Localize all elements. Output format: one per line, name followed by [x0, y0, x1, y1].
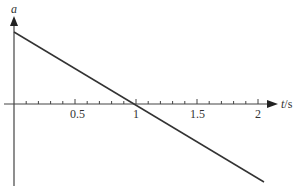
- x-axis-unit: /s: [284, 97, 292, 111]
- x-axis-label: t/s: [281, 97, 293, 111]
- tick-label-1-5: 1.5: [190, 107, 205, 121]
- tick-label-0-5: 0.5: [70, 107, 85, 121]
- y-axis-label: a: [11, 2, 17, 16]
- x-axis-arrow-icon: [267, 100, 278, 108]
- x-axis-ticks: [26, 99, 258, 104]
- tick-label-2: 2: [255, 107, 261, 121]
- acceleration-time-chart: a 0.5 1 1.5 2 t/s: [0, 0, 299, 193]
- tick-label-1: 1: [133, 107, 139, 121]
- data-line: [14, 32, 264, 182]
- y-axis-arrow-icon: [10, 16, 18, 26]
